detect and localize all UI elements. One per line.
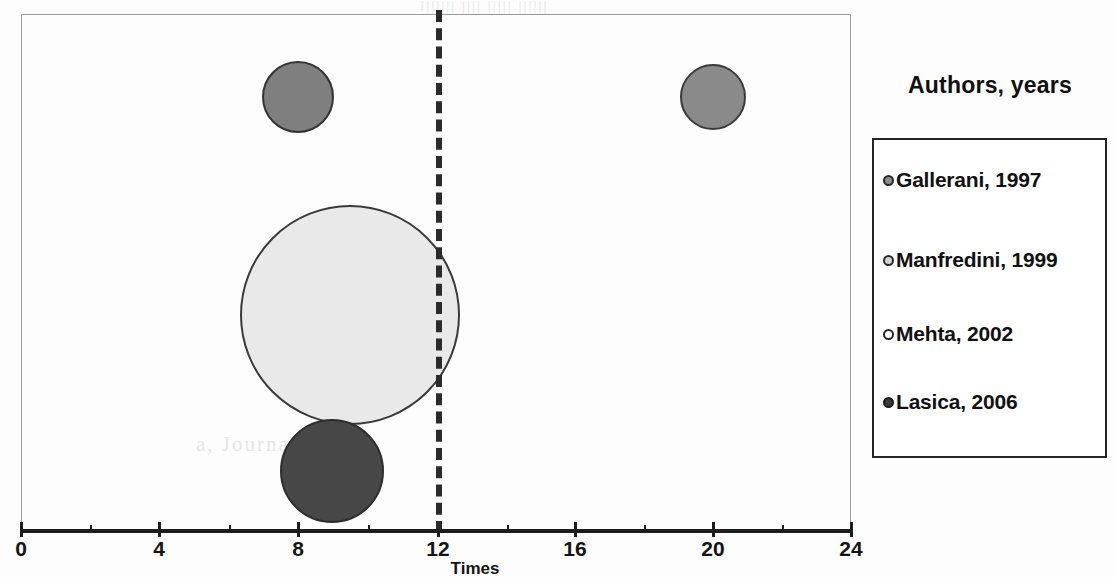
x-tick-label-24: 24 xyxy=(828,537,874,561)
legend-item-3[interactable]: Lasica, 2006 xyxy=(883,390,1017,414)
bubble-manfredini-1999[interactable] xyxy=(680,64,746,130)
x-tick-label-0: 0 xyxy=(0,537,44,561)
bubble-lasica-2006[interactable] xyxy=(280,419,384,523)
legend-item-2[interactable]: Mehta, 2002 xyxy=(883,322,1013,346)
x-tick-label-4: 4 xyxy=(136,537,182,561)
legend-title: Authors, years xyxy=(880,72,1100,99)
x-tick-label-20: 20 xyxy=(690,537,736,561)
bubble-gallerani-1997[interactable] xyxy=(262,61,334,133)
legend-marker-icon xyxy=(883,255,894,266)
x-tick-label-12: 12 xyxy=(415,537,461,561)
legend-box: Gallerani, 1997Manfredini, 1999Mehta, 20… xyxy=(872,138,1107,458)
legend-item-label: Lasica, 2006 xyxy=(896,390,1017,414)
legend-item-1[interactable]: Manfredini, 1999 xyxy=(883,248,1057,272)
legend-marker-icon xyxy=(883,329,894,340)
legend-item-label: Mehta, 2002 xyxy=(896,322,1013,346)
x-axis-line xyxy=(21,529,852,533)
legend-marker-icon xyxy=(883,175,894,186)
legend-marker-icon xyxy=(883,397,894,408)
bubble-mehta-2002[interactable] xyxy=(240,205,460,425)
legend-item-0[interactable]: Gallerani, 1997 xyxy=(883,168,1041,192)
x-tick-label-8: 8 xyxy=(275,537,321,561)
x-axis-title: Times xyxy=(415,559,535,577)
x-tick-label-16: 16 xyxy=(552,537,598,561)
legend-item-label: Gallerani, 1997 xyxy=(896,168,1041,192)
threshold-line-x12 xyxy=(436,10,442,533)
chart-root: l|||||| |||| ||||| |||||| No 11 - 0 a, J… xyxy=(0,0,1117,577)
legend-item-label: Manfredini, 1999 xyxy=(896,248,1057,272)
